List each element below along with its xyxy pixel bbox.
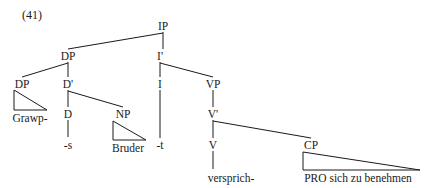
- edge-vbar-cp: [213, 121, 311, 138]
- node-i: I: [158, 79, 162, 91]
- node-dp-spec: DP: [61, 51, 76, 63]
- node-i-bar: I': [157, 51, 163, 63]
- terminal-grawp: Grawp-: [12, 113, 47, 125]
- tree-edges: [0, 0, 427, 188]
- node-np: NP: [116, 109, 131, 121]
- terminal-t-trace: -t: [156, 140, 163, 152]
- node-d-bar: D': [63, 79, 73, 91]
- node-v-bar: V': [208, 109, 218, 121]
- triangle-dp-grawp: [14, 90, 47, 110]
- edge-ibar-vp: [160, 63, 213, 77]
- syntax-tree-figure: (41) IP DP I' DP D': [0, 0, 427, 188]
- node-ip: IP: [158, 21, 168, 33]
- edge-dp-dppos: [22, 63, 68, 77]
- triangle-cp-pro: [303, 152, 420, 170]
- triangle-np-bruder: [113, 121, 146, 140]
- edge-ip-dp: [68, 33, 163, 49]
- edge-dbar-np: [68, 91, 123, 107]
- terminal-s-suffix: -s: [64, 140, 72, 152]
- terminal-pro-clause: PRO sich zu benehmen: [304, 173, 412, 185]
- node-cp: CP: [304, 140, 318, 152]
- node-vp: VP: [206, 79, 221, 91]
- node-d: D: [64, 109, 72, 121]
- node-dp-possessor: DP: [15, 79, 30, 91]
- terminal-bruder: Bruder: [112, 143, 144, 155]
- node-v: V: [209, 140, 217, 152]
- terminal-versprich: versprich-: [208, 173, 255, 185]
